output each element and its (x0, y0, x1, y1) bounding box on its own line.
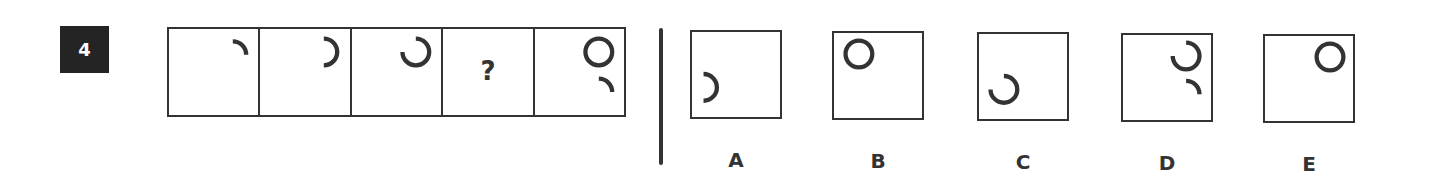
option-a-label[interactable]: A (690, 148, 782, 172)
option-e-label[interactable]: E (1263, 152, 1355, 176)
half-arc-icon (260, 29, 349, 115)
three-quarter-arc-icon (352, 29, 441, 115)
sequence-cell-1 (169, 29, 260, 115)
option-c-figure[interactable] (977, 32, 1069, 121)
question-number: 4 (78, 39, 91, 60)
divider (659, 28, 663, 165)
question-number-badge: 4 (60, 26, 109, 73)
sequence-cell-2 (260, 29, 351, 115)
quarter-arc-icon (169, 29, 258, 115)
circle-icon (834, 33, 922, 118)
sequence-strip: ? (167, 27, 626, 117)
option-b-label[interactable]: B (832, 149, 924, 173)
sequence-cell-3 (352, 29, 443, 115)
option-d-figure[interactable] (1121, 33, 1213, 122)
option-e-figure[interactable] (1263, 34, 1355, 123)
half-arc-icon (692, 32, 780, 117)
three-quarter-arc-icon (979, 34, 1067, 119)
option-b-figure[interactable] (832, 31, 924, 120)
arc-with-quarter-arc-icon (1123, 35, 1211, 120)
option-c-label[interactable]: C (977, 150, 1069, 174)
missing-item-question-mark: ? (443, 56, 532, 86)
option-d-label[interactable]: D (1121, 151, 1213, 175)
sequence-cell-5 (535, 29, 624, 115)
circle-with-arc-icon (535, 29, 624, 115)
option-a-figure[interactable] (690, 30, 782, 119)
sequence-cell-4: ? (443, 29, 534, 115)
circle-icon (1265, 36, 1353, 121)
